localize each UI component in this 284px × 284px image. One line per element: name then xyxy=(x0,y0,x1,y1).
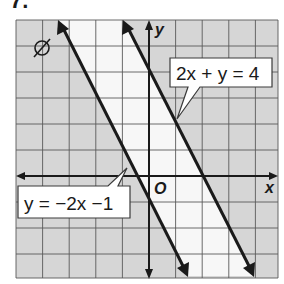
callout-upper-text: 2x + y = 4 xyxy=(176,63,260,84)
x-axis-label: x xyxy=(264,179,275,196)
system-of-equations-graph: 7. xyxy=(0,0,284,284)
y-axis-label: y xyxy=(154,21,165,38)
problem-number: 7. xyxy=(10,0,28,13)
origin-label: O xyxy=(154,180,167,197)
callout-lower-text: y = −2x −1 xyxy=(24,193,113,214)
